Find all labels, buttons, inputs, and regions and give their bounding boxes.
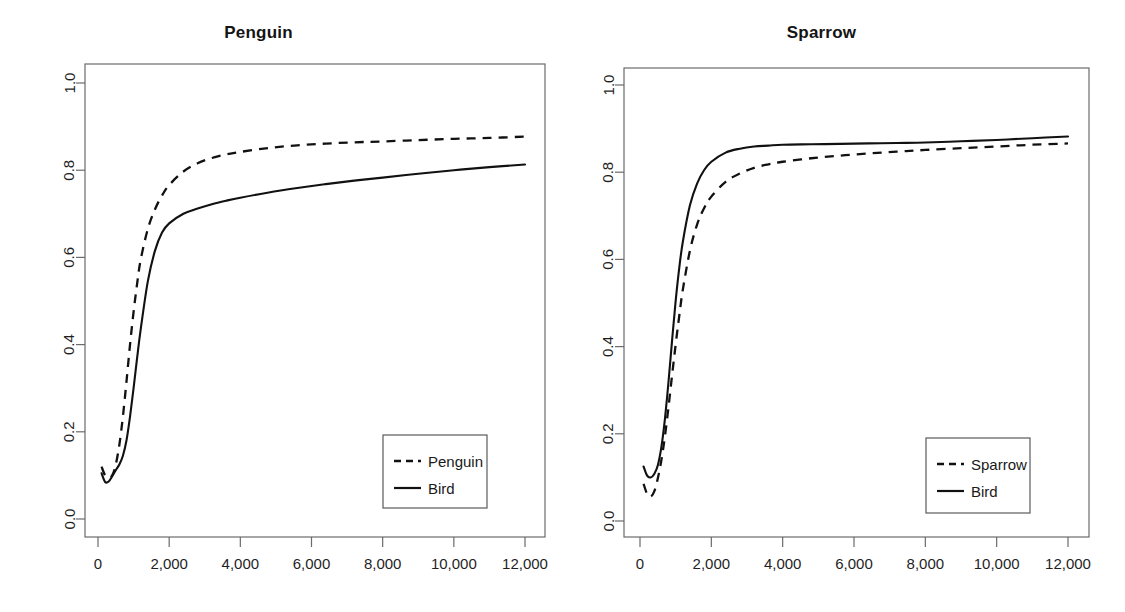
legend-label-sparrow: Sparrow (971, 456, 1027, 473)
y-axis-tick-label: 1.0 (61, 73, 78, 94)
x-axis-tick-label: 8,000 (364, 555, 402, 572)
legend-label-bird: Bird (971, 483, 998, 500)
y-axis-tick-label: 0.4 (61, 334, 78, 355)
x-axis-tick-label: 4,000 (222, 555, 260, 572)
legend-label-penguin: Penguin (428, 453, 483, 470)
chart-panel-sparrow: Sparrow 0.00.20.40.60.81.002,0004,0006,0… (562, 0, 1125, 612)
plot-area-penguin: 0.00.20.40.60.81.002,0004,0006,0008,0001… (0, 0, 563, 612)
y-axis-tick-label: 0.4 (600, 336, 617, 357)
y-axis-tick-label: 0.0 (61, 509, 78, 530)
x-axis-tick-label: 0 (94, 555, 102, 572)
legend-box (926, 438, 1030, 513)
series-line-penguin-dashed (102, 137, 525, 478)
y-axis-tick-label: 0.6 (600, 249, 617, 270)
series-line-bird-solid (644, 136, 1068, 477)
legend-box (383, 435, 487, 508)
x-axis-tick-label: 0 (636, 555, 644, 572)
y-axis-tick-label: 0.8 (600, 162, 617, 183)
figure-two-panel-line-charts: Penguin 0.00.20.40.60.81.002,0004,0006,0… (0, 0, 1125, 612)
y-axis-tick-label: 0.8 (61, 160, 78, 181)
x-axis-tick-label: 10,000 (974, 555, 1020, 572)
y-axis-tick-label: 0.6 (61, 247, 78, 268)
x-axis-tick-label: 8,000 (907, 555, 945, 572)
x-axis-tick-label: 12,000 (502, 555, 548, 572)
x-axis-tick-label: 2,000 (150, 555, 188, 572)
x-axis-tick-label: 6,000 (835, 555, 873, 572)
x-axis-tick-label: 10,000 (431, 555, 477, 572)
x-axis-tick-label: 2,000 (693, 555, 731, 572)
x-axis-tick-label: 4,000 (764, 555, 802, 572)
y-axis-tick-label: 1.0 (600, 75, 617, 96)
legend-label-bird: Bird (428, 480, 455, 497)
x-axis-tick-label: 12,000 (1045, 555, 1091, 572)
chart-panel-penguin: Penguin 0.00.20.40.60.81.002,0004,0006,0… (0, 0, 563, 612)
x-axis-tick-label: 6,000 (293, 555, 331, 572)
y-axis-tick-label: 0.0 (600, 511, 617, 532)
y-axis-tick-label: 0.2 (600, 423, 617, 444)
plot-area-sparrow: 0.00.20.40.60.81.002,0004,0006,0008,0001… (562, 0, 1125, 612)
y-axis-tick-label: 0.2 (61, 421, 78, 442)
